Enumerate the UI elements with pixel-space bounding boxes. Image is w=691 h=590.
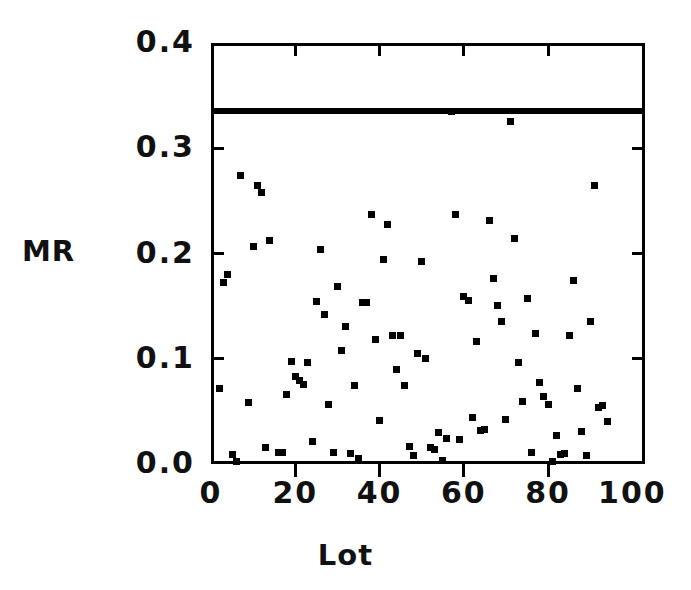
data-point	[545, 401, 552, 408]
data-point	[313, 298, 320, 305]
data-point	[262, 444, 269, 451]
data-point	[245, 399, 252, 406]
data-point	[448, 108, 455, 115]
data-point	[321, 311, 328, 318]
data-point	[300, 381, 307, 388]
data-point	[325, 401, 332, 408]
data-point	[351, 382, 358, 389]
data-point	[288, 358, 295, 365]
data-point	[435, 429, 442, 436]
data-point	[431, 446, 438, 453]
y-axis-title: MR	[22, 234, 75, 268]
data-point	[481, 426, 488, 433]
data-point	[317, 246, 324, 253]
data-point	[536, 379, 543, 386]
data-point	[549, 458, 556, 465]
data-point	[452, 211, 459, 218]
y-tick-label: 0.1	[95, 343, 195, 373]
data-point	[507, 118, 514, 125]
data-point	[304, 359, 311, 366]
data-point	[498, 318, 505, 325]
plot-area	[211, 43, 645, 464]
data-point	[494, 302, 501, 309]
x-axis-title: Lot	[0, 538, 691, 572]
y-tick-label: 0.4	[95, 27, 195, 57]
data-point	[591, 182, 598, 189]
data-point	[524, 295, 531, 302]
data-point	[414, 350, 421, 357]
data-point	[439, 457, 446, 464]
data-point	[486, 217, 493, 224]
data-point	[309, 438, 316, 445]
data-point	[347, 450, 354, 457]
data-point	[566, 332, 573, 339]
data-point	[561, 450, 568, 457]
data-point	[578, 428, 585, 435]
data-point	[443, 435, 450, 442]
y-tick-label: 0.2	[95, 238, 195, 268]
data-point	[469, 414, 476, 421]
data-point	[254, 182, 261, 189]
data-point	[418, 258, 425, 265]
data-point	[216, 385, 223, 392]
data-point	[410, 452, 417, 459]
data-point	[570, 277, 577, 284]
data-point	[338, 347, 345, 354]
data-point	[532, 330, 539, 337]
x-tick-label: 100	[572, 478, 691, 508]
upper-control-limit-line	[211, 108, 645, 114]
data-point	[279, 449, 286, 456]
data-point	[599, 402, 606, 409]
data-point	[574, 385, 581, 392]
data-point	[376, 417, 383, 424]
data-point	[355, 455, 362, 462]
data-point	[220, 279, 227, 286]
data-point	[233, 458, 240, 465]
data-point	[587, 318, 594, 325]
data-point	[553, 432, 560, 439]
data-point	[422, 355, 429, 362]
data-point	[393, 366, 400, 373]
data-point	[401, 382, 408, 389]
data-point	[368, 211, 375, 218]
y-tick-label: 0.0	[95, 448, 195, 478]
data-point	[473, 338, 480, 345]
data-point	[528, 449, 535, 456]
data-point	[490, 275, 497, 282]
data-point	[250, 243, 257, 250]
data-point	[583, 452, 590, 459]
data-point	[224, 271, 231, 278]
data-point	[406, 443, 413, 450]
data-point	[237, 172, 244, 179]
data-point	[266, 237, 273, 244]
data-point	[397, 332, 404, 339]
data-point	[342, 323, 349, 330]
data-point	[456, 436, 463, 443]
data-point	[334, 283, 341, 290]
y-tick-label: 0.3	[95, 132, 195, 162]
data-point	[604, 418, 611, 425]
data-point	[330, 449, 337, 456]
data-point	[511, 235, 518, 242]
data-point	[465, 297, 472, 304]
data-point	[363, 299, 370, 306]
data-point	[258, 189, 265, 196]
data-point	[380, 256, 387, 263]
data-point	[515, 359, 522, 366]
data-point	[229, 451, 236, 458]
data-point	[540, 393, 547, 400]
data-point	[502, 416, 509, 423]
data-point	[519, 398, 526, 405]
mr-control-chart: MR 0.00.10.20.30.4 020406080100 Lot	[0, 0, 691, 590]
data-point	[283, 391, 290, 398]
data-point	[384, 221, 391, 228]
data-point	[389, 332, 396, 339]
data-point	[372, 336, 379, 343]
